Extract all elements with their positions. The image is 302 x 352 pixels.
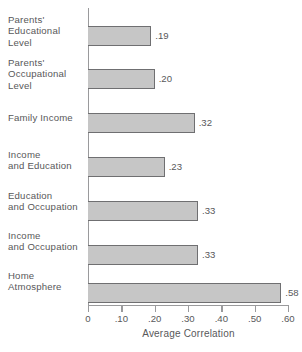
- x-axis-tick: [155, 306, 156, 312]
- category-label: Parents' Occupational Level: [8, 57, 86, 91]
- bar-value-label: .23: [169, 157, 182, 177]
- bar-value-label: .58: [285, 283, 298, 303]
- category-label: Education and Occupation: [8, 190, 86, 213]
- x-axis-tick: [88, 306, 89, 312]
- bar: [88, 113, 195, 133]
- bar: [88, 245, 198, 265]
- bar: [88, 69, 155, 89]
- x-axis-tick: [188, 306, 189, 312]
- x-axis-tick-label: .50: [248, 313, 261, 325]
- x-axis-tick: [221, 306, 222, 312]
- category-label: Parents' Educational Level: [8, 14, 86, 48]
- bar-value-label: .20: [159, 69, 172, 89]
- x-axis-tick-label: .60: [281, 313, 294, 325]
- x-axis-tick: [255, 306, 256, 312]
- x-axis-tick-label: .30: [181, 313, 194, 325]
- x-axis-tick: [288, 306, 289, 312]
- x-axis-tick-label: .20: [148, 313, 161, 325]
- category-label: Home Atmosphere: [8, 270, 86, 293]
- bar-value-label: .33: [202, 245, 215, 265]
- x-axis-tick-label: .40: [215, 313, 228, 325]
- bar: [88, 26, 151, 46]
- x-axis-tick-label: .10: [115, 313, 128, 325]
- x-axis-tick-label: 0: [85, 313, 90, 325]
- x-axis-tick: [121, 306, 122, 312]
- category-label: Income and Occupation: [8, 230, 86, 253]
- bar-chart: Parents' Educational Level Parents' Occu…: [0, 0, 302, 352]
- bar: [88, 283, 281, 303]
- plot-area: .19 .20 .32 .23 .33 .33 .58: [88, 8, 288, 305]
- bar-value-label: .33: [202, 201, 215, 221]
- bar: [88, 157, 165, 177]
- bar: [88, 201, 198, 221]
- category-label: Income and Education: [8, 149, 86, 172]
- x-axis-title: Average Correlation: [88, 328, 289, 339]
- bar-value-label: .32: [199, 113, 212, 133]
- category-label: Family Income: [8, 112, 86, 123]
- bar-value-label: .19: [155, 26, 168, 46]
